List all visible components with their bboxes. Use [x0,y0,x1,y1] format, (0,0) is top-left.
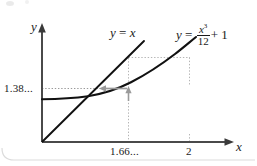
annotation-arrow-left-head [99,85,106,92]
curve-label-identity: y = x [110,26,135,39]
y-tick-label-1-38: 1.38... [4,83,33,94]
figure-container: y x 1.38... 1.66... 2 y = x y = x3 12 + … [0,0,257,166]
y-axis-arrowhead [38,23,46,33]
y-axis-label: y [31,20,37,33]
curve-label-identity-x: x [130,25,136,40]
annotation-arrow-up-head [125,86,131,93]
x-tick-label-2: 2 [186,146,192,157]
x-axis-arrowhead [225,138,235,146]
curve-label-cubic-fraction: x3 12 [197,24,210,47]
x-tick-label-1-66: 1.66... [110,146,139,157]
curve-label-cubic-denominator: 12 [197,35,210,47]
curve-label-cubic-exponent: 3 [204,22,208,30]
curve-label-cubic-eq: = [182,27,196,42]
curve-label-cubic: y = x3 12 + 1 [176,24,228,47]
curve-cubic [42,37,196,99]
curve-label-cubic-tail: + 1 [211,27,228,42]
x-axis-label: x [236,140,242,153]
curve-label-identity-eq: = [116,25,130,40]
curve-label-cubic-numerator: x3 [197,24,210,35]
